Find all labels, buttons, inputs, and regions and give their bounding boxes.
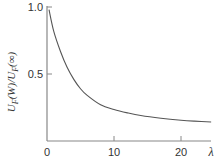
series-line <box>49 10 211 122</box>
chart: 01020 0.51.0 λ UF(W)/UF(∞) <box>0 0 219 161</box>
y-label-part: (W)/ <box>5 79 18 99</box>
y-axis-label: UF(W)/UF(∞) <box>5 51 20 112</box>
y-tick-label: 0.5 <box>28 68 43 80</box>
x-tick-label: 20 <box>175 146 187 158</box>
x-tick-label: 10 <box>108 146 120 158</box>
y-ticks: 0.51.0 <box>28 1 52 80</box>
x-axis-label: λ <box>207 145 213 159</box>
y-label-part: (∞) <box>5 51 18 67</box>
y-tick-label: 1.0 <box>28 1 43 13</box>
x-tick-label: 0 <box>44 146 50 158</box>
x-ticks: 01020 <box>44 136 187 158</box>
